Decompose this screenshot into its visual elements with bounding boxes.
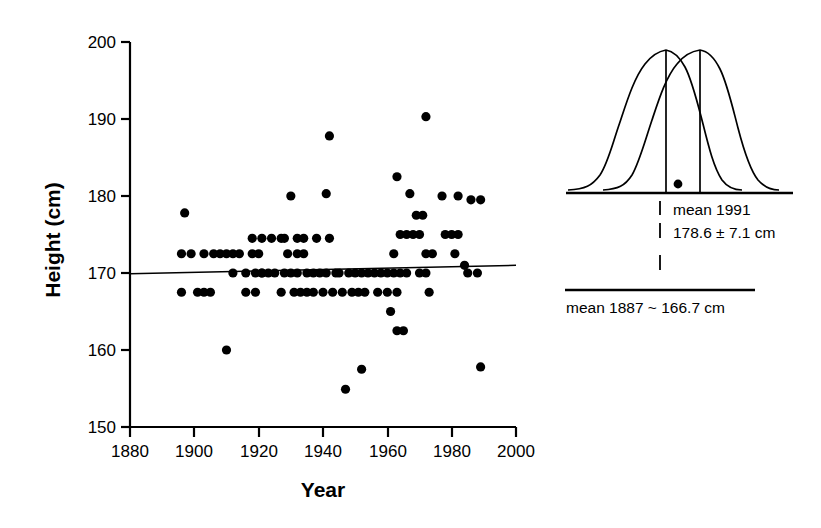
scatter-point [383, 288, 392, 297]
distribution-curve-1887 [568, 50, 742, 190]
x-axis-title: Year [301, 478, 345, 501]
scatter-point [248, 234, 257, 243]
y-tick-label-180: 180 [88, 187, 116, 206]
chart-svg: 200 190 180 170 160 150 1880 1900 [0, 0, 821, 528]
scatter-point [421, 112, 430, 121]
x-tick-label-1980: 1980 [433, 442, 471, 461]
scatter-point [405, 189, 414, 198]
scatter-point [357, 365, 366, 374]
scatter-point [425, 288, 434, 297]
scatter-point [277, 288, 286, 297]
scatter-point [450, 249, 459, 258]
scatter-point [325, 234, 334, 243]
inset-reference-dot [674, 180, 683, 189]
scatter-point [428, 249, 437, 258]
scatter-point [251, 288, 260, 297]
scatter-point [473, 268, 482, 277]
scatter-point [334, 268, 343, 277]
scatter-point [286, 191, 295, 200]
scatter-point [318, 288, 327, 297]
inset-distribution-panel: mean 1991 178.6 ± 7.1 cm mean 1887 ~ 166… [565, 50, 793, 316]
inset-label-mean-1991-value: 178.6 ± 7.1 cm [673, 224, 775, 241]
scatter-point [389, 249, 398, 258]
scatter-point [299, 234, 308, 243]
scatter-point [392, 288, 401, 297]
distribution-curve-1991 [603, 50, 779, 190]
scatter-point [293, 268, 302, 277]
x-tick-label-1920: 1920 [240, 442, 278, 461]
x-tick-label-2000: 2000 [497, 442, 535, 461]
scatter-point [222, 345, 231, 354]
scatter-point [206, 288, 215, 297]
scatter-point [280, 234, 289, 243]
inset-label-mean-1887: mean 1887 ~ 166.7 cm [566, 299, 725, 316]
x-tick-label-1880: 1880 [111, 442, 149, 461]
scatter-point [241, 268, 250, 277]
scatter-point [199, 249, 208, 258]
y-tick-label-190: 190 [88, 110, 116, 129]
scatter-point [360, 288, 369, 297]
y-tick-label-170: 170 [88, 264, 116, 283]
scatter-point [228, 268, 237, 277]
scatter-point [399, 326, 408, 335]
scatter-point [254, 249, 263, 258]
scatter-point [402, 268, 411, 277]
scatter-point [463, 268, 472, 277]
scatter-point [392, 172, 401, 181]
x-axis-tick-labels: 1880 1900 1920 1940 1960 1980 2000 [111, 442, 535, 461]
scatter-point [386, 307, 395, 316]
y-tick-label-150: 150 [88, 418, 116, 437]
scatter-point [322, 189, 331, 198]
y-axis-ticks [121, 42, 130, 427]
y-tick-label-200: 200 [88, 33, 116, 52]
scatter-point [454, 191, 463, 200]
scatter-point [437, 191, 446, 200]
scatter-point [328, 288, 337, 297]
scatter-point [309, 288, 318, 297]
scatter-point [373, 288, 382, 297]
scatter-point [177, 288, 186, 297]
scatter-point [421, 268, 430, 277]
scatter-point [325, 131, 334, 140]
figure-container: 200 190 180 170 160 150 1880 1900 [0, 0, 821, 528]
scatter-point [418, 211, 427, 220]
y-axis-title: Height (cm) [41, 182, 64, 298]
x-tick-label-1960: 1960 [369, 442, 407, 461]
scatter-plot-panel: 200 190 180 170 160 150 1880 1900 [41, 33, 535, 501]
scatter-point [267, 234, 276, 243]
scatter-point [180, 208, 189, 217]
scatter-point [476, 362, 485, 371]
x-axis-ticks [130, 427, 516, 437]
scatter-point [341, 385, 350, 394]
scatter-point [466, 195, 475, 204]
x-tick-label-1900: 1900 [175, 442, 213, 461]
scatter-point [299, 249, 308, 258]
scatter-point [476, 195, 485, 204]
inset-label-mean-1991: mean 1991 [673, 201, 751, 218]
scatter-point [270, 268, 279, 277]
scatter-point-group [177, 112, 485, 394]
scatter-point [338, 288, 347, 297]
scatter-point [235, 249, 244, 258]
x-tick-label-1940: 1940 [304, 442, 342, 461]
scatter-point [454, 230, 463, 239]
y-tick-label-160: 160 [88, 341, 116, 360]
y-axis-tick-labels: 200 190 180 170 160 150 [88, 33, 116, 437]
scatter-point [283, 249, 292, 258]
scatter-point [257, 268, 266, 277]
scatter-point [415, 230, 424, 239]
scatter-point [241, 288, 250, 297]
scatter-point [177, 249, 186, 258]
scatter-point [312, 234, 321, 243]
scatter-point [322, 268, 331, 277]
scatter-point [257, 234, 266, 243]
scatter-point [187, 249, 196, 258]
